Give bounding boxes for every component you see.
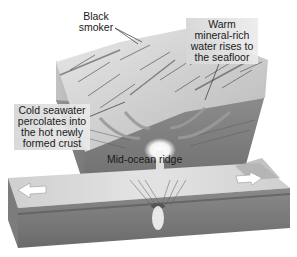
label-black-smoker: Black smoker xyxy=(68,11,124,33)
label-cold-seawater: Cold seawater percolates into the hot ne… xyxy=(14,104,90,150)
label-mid-ocean-ridge: Mid-ocean ridge xyxy=(107,154,207,165)
diagram-stage: Black smoker Warm mineral-rich water ris… xyxy=(0,0,297,257)
label-warm-water: Warm mineral-rich water rises to the sea… xyxy=(186,18,258,64)
lower-block xyxy=(8,158,290,248)
